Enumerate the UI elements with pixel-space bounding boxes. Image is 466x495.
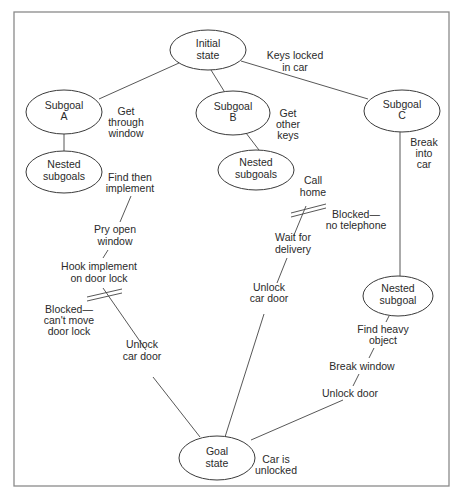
label-call-home: Call home — [300, 174, 326, 198]
node-initial-state: Initial state — [170, 30, 246, 70]
edge-subgoal-b-to-nested — [246, 133, 259, 150]
svg-text:Goal: Goal — [206, 445, 228, 457]
edge-unlock-b-to-goal — [225, 314, 264, 437]
svg-text:Hook implement: Hook implement — [61, 260, 137, 272]
diagram-frame — [14, 12, 449, 486]
label-unlock-car-door-b: Unlock car door — [250, 281, 289, 304]
svg-text:Nested: Nested — [381, 282, 414, 294]
svg-text:implement: implement — [106, 182, 155, 194]
edge-nested-c-to-find-heavy — [386, 316, 389, 322]
svg-text:home: home — [300, 186, 326, 198]
svg-text:state: state — [206, 457, 229, 469]
svg-text:Nested: Nested — [239, 156, 272, 168]
label-pry-open-window: Pry open window — [94, 223, 136, 247]
svg-text:Break window: Break window — [329, 360, 395, 372]
svg-text:subgoal: subgoal — [380, 294, 417, 306]
svg-text:car: car — [417, 158, 432, 170]
svg-text:C: C — [398, 109, 406, 121]
svg-text:Wait for: Wait for — [275, 231, 311, 243]
edge-find-heavy-to-break — [369, 348, 374, 358]
label-blocked-door-lock: Blocked— can't move door lock — [44, 303, 95, 337]
edge-initial-to-subgoal-a — [99, 63, 179, 99]
label-break-window: Break window — [329, 360, 395, 372]
label-keys-locked-in-car: Keys locked in car — [267, 49, 324, 73]
svg-text:object: object — [369, 334, 397, 346]
label-unlock-door: Unlock door — [322, 387, 379, 399]
svg-text:car door: car door — [123, 350, 162, 362]
edge-initial-to-subgoal-b — [211, 70, 224, 91]
edge-wait-to-unlock-b — [277, 258, 287, 283]
node-goal-state: Goal state — [179, 436, 255, 480]
node-subgoal-b: Subgoal B — [196, 91, 270, 135]
svg-text:keys: keys — [277, 129, 299, 141]
svg-text:delivery: delivery — [275, 243, 312, 255]
node-nested-subgoal-c: Nested subgoal — [363, 276, 433, 316]
svg-text:A: A — [60, 110, 67, 122]
label-car-is-unlocked: Car is unlocked — [255, 453, 297, 476]
svg-text:Pry open: Pry open — [94, 223, 136, 235]
label-blocked-no-telephone: Blocked— no telephone — [326, 208, 387, 231]
svg-text:window: window — [96, 235, 132, 247]
blocked-marker-telephone — [291, 204, 326, 217]
svg-text:subgoals: subgoals — [43, 170, 85, 182]
svg-text:Call: Call — [304, 174, 322, 186]
svg-text:state: state — [197, 49, 220, 61]
label-get-through-window: Get through window — [107, 105, 143, 139]
svg-text:unlocked: unlocked — [255, 464, 297, 476]
svg-text:Keys locked: Keys locked — [267, 49, 324, 61]
goal-tree-diagram: Initial state Subgoal A Subgoal B Subgoa… — [0, 0, 466, 495]
edge-pry-to-hook — [103, 250, 108, 258]
label-unlock-car-door-a: Unlock car door — [123, 338, 162, 362]
svg-text:B: B — [229, 111, 236, 123]
svg-text:window: window — [107, 127, 143, 139]
label-break-into-car: Break into car — [410, 136, 438, 170]
label-find-then-implement: Find then implement — [106, 171, 155, 194]
edge-unlock-a-to-goal — [153, 377, 200, 437]
node-subgoal-c: Subgoal C — [364, 90, 440, 132]
svg-text:no telephone: no telephone — [326, 219, 387, 231]
svg-text:car door: car door — [250, 292, 289, 304]
edge-break-to-unlock-door — [353, 374, 359, 386]
svg-text:Nested: Nested — [47, 158, 80, 170]
label-get-other-keys: Get other keys — [276, 107, 300, 141]
label-hook-implement: Hook implement on door lock — [61, 260, 137, 284]
edge-unlock-door-to-goal — [251, 400, 343, 440]
edge-find-to-pry — [120, 196, 131, 222]
node-nested-subgoals-a: Nested subgoals — [26, 151, 102, 193]
svg-text:Unlock: Unlock — [126, 338, 159, 350]
node-subgoal-a: Subgoal A — [26, 90, 102, 134]
svg-text:Unlock door: Unlock door — [322, 387, 379, 399]
svg-text:in car: in car — [282, 61, 308, 73]
svg-text:Initial: Initial — [196, 37, 221, 49]
label-wait-for-delivery: Wait for delivery — [275, 231, 312, 255]
svg-text:door lock: door lock — [48, 325, 91, 337]
label-find-heavy-object: Find heavy object — [357, 323, 409, 346]
node-nested-subgoals-b: Nested subgoals — [218, 150, 294, 190]
svg-text:on door lock: on door lock — [70, 272, 128, 284]
svg-text:subgoals: subgoals — [235, 168, 277, 180]
